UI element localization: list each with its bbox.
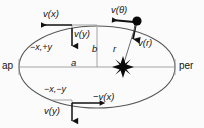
radius-line bbox=[123, 24, 136, 66]
vector-label-vr: v(r) bbox=[138, 38, 152, 48]
vtheta-arrow bbox=[112, 20, 134, 22]
vector-label-vx-top: v(x) bbox=[43, 9, 59, 19]
apoapsis-label: ap bbox=[2, 61, 13, 71]
quadrant-label-upper-left: −x,+y bbox=[30, 43, 52, 52]
semi-minor-axis-label: b bbox=[92, 44, 97, 54]
vector-label-vy-top: v(y) bbox=[74, 29, 90, 39]
quadrant-label-lower-left: −x,−y bbox=[44, 85, 66, 94]
periapsis-label: per bbox=[179, 61, 193, 71]
vector-label-vtheta: v(θ) bbox=[111, 5, 127, 15]
vector-label-vx-bottom: −v(x) bbox=[93, 92, 114, 102]
figure-canvas: v(x) v(y) v(θ) v(r) −v(x) v(y) r b a ap … bbox=[0, 0, 204, 128]
orbiting-body bbox=[132, 16, 141, 25]
radius-label: r bbox=[113, 44, 116, 54]
semi-major-axis-label: a bbox=[71, 58, 76, 68]
vector-label-vy-bottom: v(y) bbox=[44, 106, 60, 116]
star-at-focus bbox=[112, 56, 134, 78]
orbit-diagram-graphics bbox=[0, 0, 204, 128]
